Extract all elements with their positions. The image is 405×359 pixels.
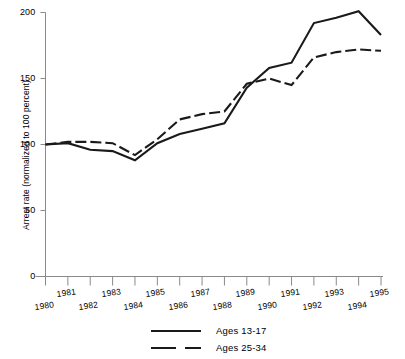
legend-label-ages-13-17: Ages 13-17 — [216, 325, 267, 336]
chart-legend: Ages 13-17 Ages 25-34 — [150, 322, 340, 356]
series-line-ages-25-34 — [46, 49, 382, 155]
legend-item-ages-25-34: Ages 25-34 — [150, 339, 340, 356]
plot-area — [0, 0, 405, 359]
legend-item-ages-13-17: Ages 13-17 — [150, 322, 340, 339]
legend-swatch-solid — [150, 326, 202, 336]
series-line-ages-13-17 — [46, 11, 382, 160]
legend-label-ages-25-34: Ages 25-34 — [216, 342, 267, 353]
legend-swatch-dashed — [150, 343, 202, 353]
chart-container: Arrest rate (normalized to 100 percent) … — [0, 0, 405, 359]
